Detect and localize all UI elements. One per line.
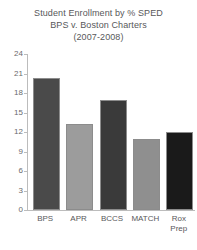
y-axis-tick-label: 6	[19, 167, 23, 175]
x-axis-label-bps: BPS	[29, 214, 62, 224]
y-axis-tick-label: 15	[14, 109, 23, 117]
x-axis-line	[27, 210, 195, 211]
y-axis-tick-label: 0	[19, 206, 23, 214]
y-axis-tick-label: 3	[19, 187, 23, 195]
x-axis-label-match: MATCH	[129, 214, 162, 224]
x-axis-label-bccs: BCCS	[95, 214, 128, 224]
y-axis-tick-label: 21	[14, 70, 23, 78]
y-axis-tick-label: 12	[14, 128, 23, 136]
x-axis-labels: BPSAPRBCCSMATCHRox Prep	[27, 214, 195, 248]
bar-match	[133, 139, 160, 211]
chart-title-line-3: (2007-2008)	[0, 31, 197, 43]
x-axis-label-apr: APR	[62, 214, 95, 224]
plot-area: 03691215182124	[27, 54, 195, 211]
chart-title-line-2: BPS v. Boston Charters	[0, 19, 197, 31]
y-axis-tick-label: 9	[19, 148, 23, 156]
y-axis-tick	[24, 210, 28, 211]
bar-bccs	[100, 100, 127, 211]
y-axis-tick-label: 18	[14, 89, 23, 97]
chart-container: Student Enrollment by % SPED BPS v. Bost…	[0, 0, 197, 250]
bar-apr	[66, 124, 93, 210]
chart-title: Student Enrollment by % SPED BPS v. Bost…	[0, 7, 197, 43]
chart-title-line-1: Student Enrollment by % SPED	[0, 7, 197, 19]
y-axis-tick-label: 24	[14, 50, 23, 58]
x-axis-label-rox-prep: Rox Prep	[162, 214, 195, 234]
bar-bps	[33, 78, 60, 210]
bar-rox-prep	[166, 132, 193, 210]
bar-series	[28, 54, 195, 210]
